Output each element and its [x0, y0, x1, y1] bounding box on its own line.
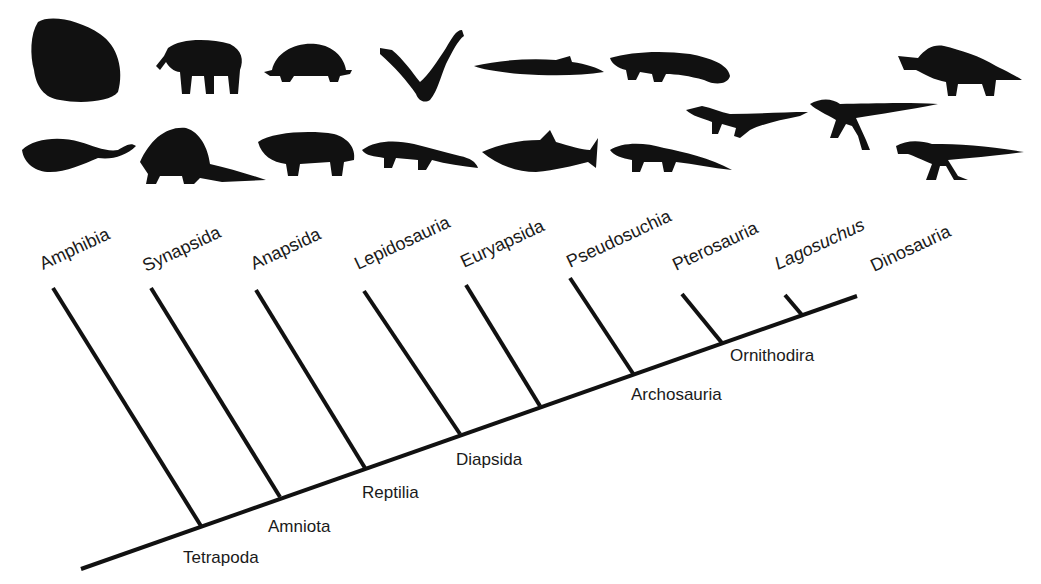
taxon-label: Pseudosuchia — [563, 205, 675, 271]
node-labels: Tetrapoda Amniota Reptilia Diapsida Arch… — [183, 346, 815, 567]
pareiasaur-silhouette — [258, 132, 354, 176]
taxon-label: Dinosauria — [867, 221, 954, 276]
ichthyosaur-silhouette — [474, 56, 604, 75]
animal-silhouettes — [22, 18, 1024, 184]
dimetrodon-silhouette — [140, 128, 266, 184]
cladogram: Amphibia Synapsida Anapsida Lepidosauria… — [0, 0, 1041, 584]
taxon-labels: Amphibia Synapsida Anapsida Lepidosauria… — [36, 205, 954, 275]
taxon-label: Amphibia — [36, 223, 113, 273]
trunk-branch — [81, 296, 857, 569]
branch-amphibia — [53, 288, 201, 526]
elephant-silhouette — [156, 40, 242, 94]
salamander-silhouette — [22, 139, 136, 172]
pterosaur-silhouette — [686, 106, 808, 138]
node-label: Diapsida — [456, 450, 523, 469]
branch-anapsida — [256, 290, 365, 468]
shark-like-ichthyosaur-silhouette — [482, 130, 598, 172]
triceratops-silhouette — [898, 46, 1022, 97]
tortoise-silhouette — [264, 44, 352, 82]
taxon-label: Lagosuchus — [771, 214, 867, 273]
branch-lagosuchus — [785, 295, 802, 315]
node-label: Archosauria — [631, 385, 722, 404]
crocodile-silhouette — [610, 52, 730, 84]
node-label: Amniota — [268, 517, 331, 536]
node-label: Tetrapoda — [183, 548, 259, 567]
frog-silhouette — [31, 18, 120, 102]
taxon-label: Pterosauria — [669, 217, 762, 274]
taxon-label: Euryapsida — [457, 215, 548, 272]
node-label: Reptilia — [362, 483, 419, 502]
branch-lepidosauria — [364, 291, 460, 434]
branch-pterosauria — [682, 294, 722, 343]
node-label: Ornithodira — [730, 346, 815, 365]
theropod-silhouette — [896, 141, 1024, 180]
branch-synapsida — [151, 288, 280, 497]
lizard-silhouette — [362, 142, 478, 170]
taxon-label: Lepidosauria — [351, 212, 454, 274]
branch-pseudosuchia — [570, 278, 634, 375]
branch-euryapsida — [466, 285, 540, 406]
plesiosaur-silhouette — [380, 30, 464, 102]
taxon-label: Synapsida — [139, 222, 225, 276]
taxon-label: Anapsida — [247, 223, 324, 273]
rauisuchian-silhouette — [610, 144, 732, 172]
